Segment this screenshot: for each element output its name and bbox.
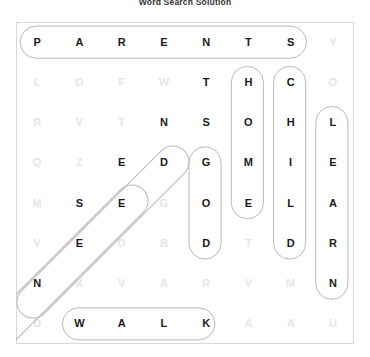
grid-cell-r3-c7: E — [312, 143, 354, 183]
grid-cell-r7-c6: A — [270, 304, 312, 344]
grid-cell-r7-c1: W — [58, 304, 100, 344]
grid-cell-r4-c6: L — [270, 183, 312, 223]
grid-cell-r6-c1: X — [58, 264, 100, 304]
grid-cell-r3-c0: Q — [16, 143, 58, 183]
grid-cell-r3-c1: Z — [58, 143, 100, 183]
grid-cell-r6-c5: V — [227, 264, 269, 304]
grid-cell-r6-c6: M — [270, 264, 312, 304]
grid-cell-r5-c7: R — [312, 223, 354, 263]
grid-cell-r2-c7: L — [312, 103, 354, 143]
grid-cell-r3-c3: D — [143, 143, 185, 183]
grid-cell-r1-c0: L — [16, 62, 58, 102]
grid-cell-r1-c6: C — [270, 62, 312, 102]
grid-cell-r0-c2: R — [101, 22, 143, 62]
grid-cell-r4-c5: E — [227, 183, 269, 223]
grid-cell-r0-c0: P — [16, 22, 58, 62]
grid-cell-r0-c5: T — [227, 22, 269, 62]
grid-cell-r4-c1: S — [58, 183, 100, 223]
grid-cell-r7-c2: A — [101, 304, 143, 344]
grid-cell-r0-c1: A — [58, 22, 100, 62]
grid-cell-r6-c7: N — [312, 264, 354, 304]
grid-cell-r5-c6: D — [270, 223, 312, 263]
grid-cell-r7-c5: A — [227, 304, 269, 344]
grid-cell-r5-c2: D — [101, 223, 143, 263]
grid-cell-r1-c2: F — [101, 62, 143, 102]
grid-cell-r2-c1: V — [58, 103, 100, 143]
grid-cell-r5-c1: E — [58, 223, 100, 263]
grid-cell-r7-c0: D — [16, 304, 58, 344]
grid-cell-r1-c1: O — [58, 62, 100, 102]
grid-cell-r5-c5: T — [227, 223, 269, 263]
grid-cell-r6-c4: R — [185, 264, 227, 304]
grid-cell-r3-c5: M — [227, 143, 269, 183]
grid-cell-r6-c2: V — [101, 264, 143, 304]
grid-cell-r1-c7: O — [312, 62, 354, 102]
grid-cell-r0-c7: Y — [312, 22, 354, 62]
word-search-puzzle: PARENTSYLOFWTHCORVTNSOHLQZEDGMIEMSEGOELA… — [16, 22, 354, 344]
grid-cell-r6-c3: A — [143, 264, 185, 304]
grid-cell-r4-c0: M — [16, 183, 58, 223]
grid-cell-r0-c6: S — [270, 22, 312, 62]
grid-cell-r1-c5: H — [227, 62, 269, 102]
grid-cell-r0-c3: E — [143, 22, 185, 62]
grid-cell-r3-c4: G — [185, 143, 227, 183]
grid-cell-r1-c3: W — [143, 62, 185, 102]
grid-cell-r7-c4: K — [185, 304, 227, 344]
grid-cell-r5-c0: V — [16, 223, 58, 263]
grid-cell-r6-c0: N — [16, 264, 58, 304]
grid-cell-r4-c3: G — [143, 183, 185, 223]
page-title: Word Search Solution — [0, 0, 370, 8]
grid-cell-r7-c3: L — [143, 304, 185, 344]
grid-cell-r1-c4: T — [185, 62, 227, 102]
grid-cell-r2-c2: T — [101, 103, 143, 143]
grid-cell-r4-c4: O — [185, 183, 227, 223]
grid-cell-r2-c6: H — [270, 103, 312, 143]
grid-cell-r3-c6: I — [270, 143, 312, 183]
grid-cell-r2-c0: R — [16, 103, 58, 143]
grid-cell-r5-c4: D — [185, 223, 227, 263]
grid-cell-r5-c3: B — [143, 223, 185, 263]
grid-cell-r4-c2: E — [101, 183, 143, 223]
grid-cell-r7-c7: U — [312, 304, 354, 344]
grid-cell-r4-c7: A — [312, 183, 354, 223]
grid-cell-r2-c4: S — [185, 103, 227, 143]
grid-cell-r0-c4: N — [185, 22, 227, 62]
grid-cell-r2-c5: O — [227, 103, 269, 143]
grid-cell-r2-c3: N — [143, 103, 185, 143]
letter-grid: PARENTSYLOFWTHCORVTNSOHLQZEDGMIEMSEGOELA… — [16, 22, 354, 344]
grid-cell-r3-c2: E — [101, 143, 143, 183]
